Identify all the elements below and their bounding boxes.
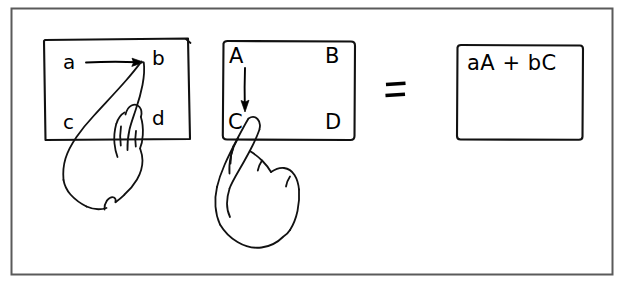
- swipe-down-arrow-icon: [241, 68, 249, 112]
- cell-label-A: A: [229, 44, 243, 68]
- pointing-hand-left: [63, 62, 144, 210]
- cell-label-a: a: [63, 50, 75, 74]
- diagram-vector-layer: [0, 0, 621, 289]
- swipe-right-arrow-icon: [86, 58, 144, 66]
- cell-label-B: B: [325, 44, 339, 68]
- pointing-hand-middle: [215, 117, 299, 248]
- result-expression: aA + bC: [467, 51, 557, 75]
- outer-frame: [12, 9, 613, 275]
- cell-label-b: b: [152, 46, 165, 70]
- cell-label-C: C: [228, 110, 243, 134]
- cell-label-D: D: [325, 110, 341, 134]
- equals-sign-glyph: [386, 83, 406, 95]
- cell-label-d: d: [152, 106, 165, 130]
- diagram-canvas: a b c d A B C D aA + bC: [0, 0, 621, 289]
- cell-label-c: c: [63, 110, 74, 134]
